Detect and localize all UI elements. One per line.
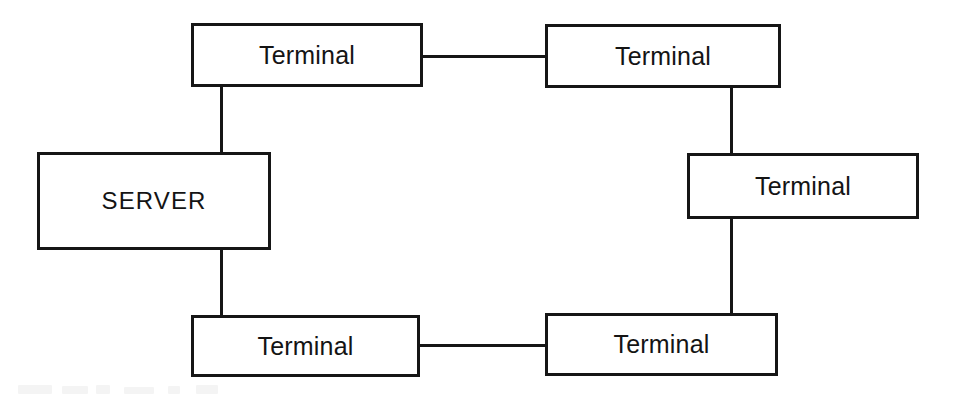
node-label-terminal-bottom-right: Terminal [613,332,709,357]
node-label-terminal-right-middle: Terminal [755,174,851,199]
connector-link-server-to-bottomleft [220,247,223,317]
scan-artifact [18,385,52,394]
connector-link-right-to-bottomright [730,217,733,315]
node-label-terminal-bottom-left: Terminal [257,334,353,359]
node-terminal-right-middle[interactable]: Terminal [687,153,919,219]
node-label-server: SERVER [102,189,207,213]
scan-artifact [124,387,154,394]
connector-link-topleft-to-server [220,85,223,155]
node-label-terminal-top-right: Terminal [615,44,711,69]
connector-link-bottom-horizontal [417,344,548,347]
scan-artifact [168,386,180,394]
connector-link-top-horizontal [420,55,548,58]
node-terminal-bottom-right[interactable]: Terminal [545,313,778,376]
node-terminal-bottom-left[interactable]: Terminal [191,315,420,377]
scan-artifact [62,386,88,394]
node-label-terminal-top-left: Terminal [259,43,355,68]
network-topology-diagram: TerminalTerminalSERVERTerminalTerminalTe… [0,0,957,400]
node-server[interactable]: SERVER [37,152,271,250]
scan-artifact [196,385,218,394]
node-terminal-top-right[interactable]: Terminal [545,24,781,88]
scan-artifact [96,385,110,394]
connector-link-topright-to-right [730,86,733,156]
node-terminal-top-left[interactable]: Terminal [191,23,423,87]
